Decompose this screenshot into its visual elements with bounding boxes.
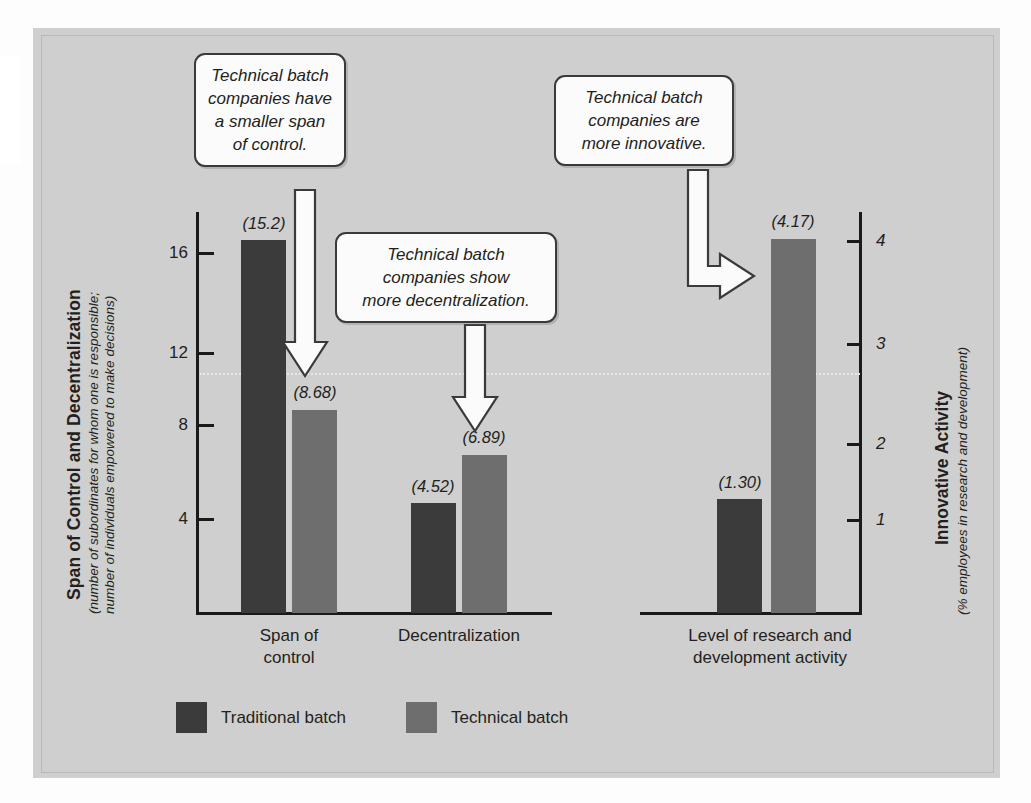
callout-arrow-innovation xyxy=(640,170,770,290)
left-axis-title: Span of Control and Decentralization xyxy=(64,289,85,600)
callout-span-of-control-line3: a smaller span xyxy=(208,110,332,133)
callout-decentralization: Technical batch companies show more dece… xyxy=(335,232,557,323)
callout-arrow-span-of-control xyxy=(286,190,338,380)
callout-innovation-line1: Technical batch xyxy=(568,86,720,109)
bar-traditional-rnd xyxy=(717,499,762,613)
left-axis-line xyxy=(196,212,199,615)
left-tick-label-12: 12 xyxy=(150,343,188,363)
category-label-rnd: Level of research and development activi… xyxy=(625,625,915,669)
bar-label-technical-span-of-control: (8.68) xyxy=(272,383,358,402)
left-tick-12 xyxy=(199,352,214,355)
right-axis-line xyxy=(859,212,862,615)
right-axis-subtitle: (% employees in research and development… xyxy=(955,347,970,615)
chart-plot-area: Span of Control and Decentralization (nu… xyxy=(0,0,1031,803)
callout-decentralization-line1: Technical batch xyxy=(349,243,543,266)
bar-traditional-decentralization xyxy=(411,503,456,613)
legend-label-technical: Technical batch xyxy=(451,708,568,728)
category-label-decentralization-line1: Decentralization xyxy=(379,625,539,647)
right-tick-label-2: 2 xyxy=(876,434,906,454)
callout-arrow-decentralization xyxy=(456,325,512,435)
callout-span-of-control: Technical batch companies have a smaller… xyxy=(194,53,346,167)
bar-traditional-span-of-control xyxy=(241,240,286,613)
bar-technical-span-of-control xyxy=(292,410,337,613)
left-tick-label-8: 8 xyxy=(150,415,188,435)
legend-swatch-technical xyxy=(406,702,437,733)
category-label-decentralization: Decentralization xyxy=(379,625,539,647)
right-tick-2 xyxy=(847,443,862,446)
category-label-rnd-line2: development activity xyxy=(625,647,915,669)
page-edge-notch xyxy=(0,55,20,165)
legend-swatch-traditional xyxy=(176,702,207,733)
right-tick-label-4: 4 xyxy=(876,231,906,251)
category-label-span-of-control-line1: Span of xyxy=(209,625,369,647)
callout-span-of-control-line4: of control. xyxy=(208,133,332,156)
right-tick-label-3: 3 xyxy=(876,334,906,354)
right-tick-1 xyxy=(847,519,862,522)
left-tick-8 xyxy=(199,424,214,427)
right-tick-label-1: 1 xyxy=(876,510,906,530)
legend-item-traditional-batch: Traditional batch xyxy=(176,702,346,733)
left-axis-subtitle-line1: (number of subordinates for whom one is … xyxy=(86,292,102,614)
category-label-span-of-control: Span of control xyxy=(209,625,369,669)
left-tick-label-16: 16 xyxy=(150,243,188,263)
left-axis-subtitle: (number of subordinates for whom one is … xyxy=(86,292,118,614)
right-axis-title: Innovative Activity xyxy=(932,391,953,545)
callout-span-of-control-line2: companies have xyxy=(208,87,332,110)
callout-innovation: Technical batch companies are more innov… xyxy=(554,75,734,166)
left-axis-subtitle-line2: number of individuals empowered to make … xyxy=(102,292,118,614)
left-tick-label-4: 4 xyxy=(150,509,188,529)
callout-decentralization-line2: companies show xyxy=(349,266,543,289)
right-tick-4 xyxy=(847,240,862,243)
category-label-rnd-line1: Level of research and xyxy=(625,625,915,647)
page-gutter-bottom xyxy=(0,778,1031,803)
right-tick-3 xyxy=(847,343,862,346)
bar-technical-rnd xyxy=(771,239,816,613)
category-label-span-of-control-line2: control xyxy=(209,647,369,669)
left-tick-16 xyxy=(199,252,214,255)
page-gutter-right xyxy=(1000,0,1031,803)
legend-item-technical-batch: Technical batch xyxy=(406,702,568,733)
bar-technical-decentralization xyxy=(462,455,507,613)
chart-legend: Traditional batch Technical batch xyxy=(176,702,568,733)
callout-span-of-control-line1: Technical batch xyxy=(208,64,332,87)
legend-label-traditional: Traditional batch xyxy=(221,708,346,728)
callout-decentralization-line3: more decentralization. xyxy=(349,289,543,312)
callout-innovation-line2: companies are xyxy=(568,109,720,132)
page-gutter-top xyxy=(0,0,1031,28)
callout-innovation-line3: more innovative. xyxy=(568,132,720,155)
left-tick-4 xyxy=(199,518,214,521)
